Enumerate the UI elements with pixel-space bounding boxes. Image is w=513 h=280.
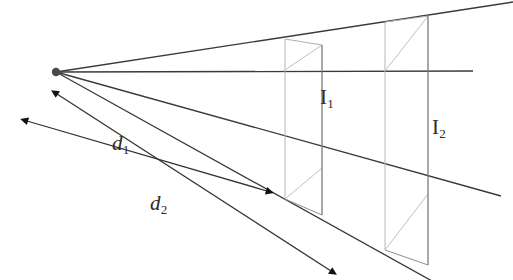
- label-d1-subscript: 1: [123, 142, 130, 157]
- plane-i2-diag-lower: [385, 194, 428, 250]
- label-d2-subscript: 2: [161, 202, 168, 217]
- label-i1-base: I: [320, 85, 327, 109]
- label-d2: d2: [150, 193, 167, 214]
- plane-i2-diag-upper: [385, 16, 428, 71]
- plane-i2: [385, 16, 428, 265]
- ray-bottom: [56, 72, 432, 280]
- point-source: [52, 68, 60, 76]
- measure-arrow-d1: [27, 121, 267, 191]
- plane-i1: [285, 39, 322, 215]
- diagram-canvas: d1 d2 I1 I2: [0, 0, 513, 280]
- ray-diagram-svg: [0, 0, 513, 280]
- measure-arrow-d2: [57, 94, 331, 271]
- label-d2-base: d: [150, 191, 161, 215]
- label-i1-subscript: 1: [327, 96, 334, 111]
- plane-i1-depth-bottom: [285, 199, 322, 215]
- ray-axis: [56, 71, 473, 72]
- label-d1-base: d: [112, 131, 123, 155]
- label-i2: I2: [432, 117, 446, 138]
- plane-i2-depth-bottom: [385, 250, 428, 265]
- plane-i2-depth-top: [385, 16, 428, 22]
- label-d1: d1: [112, 133, 129, 154]
- plane-i1-depth-top: [285, 39, 322, 45]
- plane-i1-diag-upper: [285, 45, 322, 70]
- label-i1: I1: [320, 87, 334, 108]
- label-i2-base: I: [432, 115, 439, 139]
- plane-i1-diag-lower: [285, 168, 322, 199]
- label-i2-subscript: 2: [439, 126, 446, 141]
